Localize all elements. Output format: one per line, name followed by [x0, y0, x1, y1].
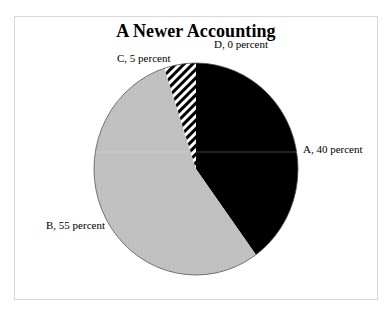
slice-label-b: B, 55 percent [46, 219, 105, 231]
slice-label-a: A, 40 percent [303, 143, 363, 155]
pie-chart [0, 0, 392, 315]
slice-label-d: D, 0 percent [214, 38, 268, 50]
slice-label-c: C, 5 percent [117, 52, 170, 64]
